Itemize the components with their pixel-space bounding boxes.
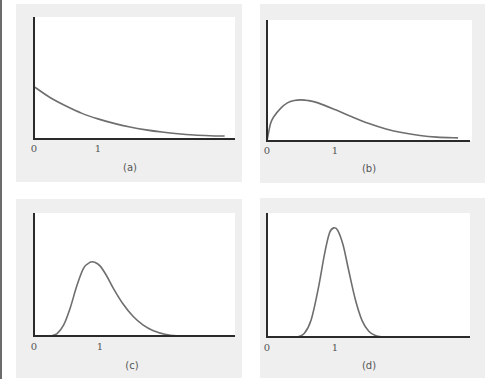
plot-area: [34, 17, 235, 139]
chart-svg-d: [260, 198, 485, 378]
panel-label: (c): [125, 361, 138, 371]
x-tick-1: 1: [95, 144, 101, 154]
plot-area: [267, 213, 470, 337]
x-tick-0: 0: [264, 146, 270, 156]
panel-label: (d): [362, 361, 376, 371]
chart-panel-b: 0 1 (b): [260, 4, 485, 183]
left-edge-bar: [0, 0, 2, 379]
chart-panel-d: 0 1 (d): [260, 198, 485, 378]
x-tick-1: 1: [332, 343, 338, 353]
chart-svg-b: [260, 4, 485, 183]
chart-panel-c: 0 1 (c): [16, 199, 242, 378]
chart-svg-c: [16, 199, 242, 378]
chart-panel-a: 0 1 (a): [16, 4, 242, 182]
x-tick-0: 0: [31, 342, 37, 352]
x-tick-0: 0: [31, 144, 37, 154]
x-tick-0: 0: [264, 343, 270, 353]
x-tick-1: 1: [332, 146, 338, 156]
x-tick-1: 1: [97, 342, 103, 352]
panel-label: (a): [123, 163, 137, 173]
panel-label: (b): [362, 164, 376, 174]
chart-svg-a: [16, 4, 242, 182]
